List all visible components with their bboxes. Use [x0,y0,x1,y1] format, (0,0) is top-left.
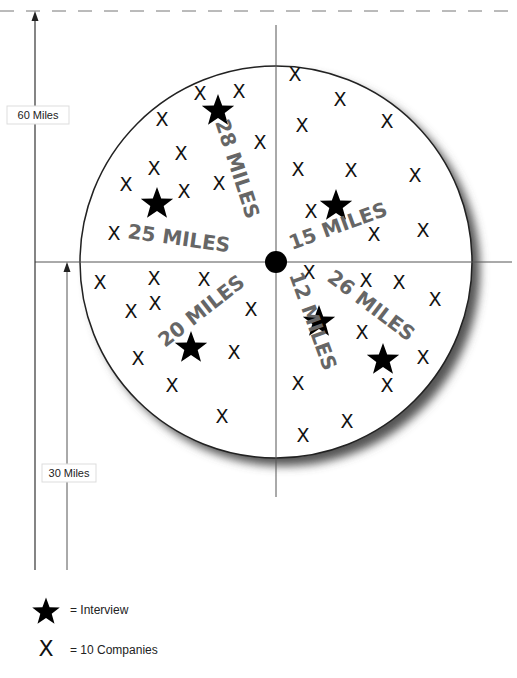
x-icon: X [215,405,228,427]
x-icon: X [333,88,346,110]
x-icon: X [131,347,144,369]
x-icon: X [304,200,317,222]
legend-label-companies: = 10 Companies [70,643,158,657]
x-icon: X [296,424,309,446]
x-icon: X [416,219,429,241]
x-icon: X [232,80,245,102]
x-icon: X [147,157,160,179]
x-icon: X [124,300,137,322]
x-icon: X [148,292,161,314]
x-icon: X [416,346,429,368]
legend-label-interview: = Interview [70,603,129,617]
x-icon: X [392,271,405,293]
x-icon: X [408,164,421,186]
x-icon: X [174,142,187,164]
x-icon: X [380,374,393,396]
x-icon: X [227,341,240,363]
x-icon: X [147,267,160,289]
distance-diagram: X X X X X X X X X X X X X X X X X X X X … [0,0,517,678]
legend-item-interview: = Interview [32,598,128,624]
x-icon: X [355,321,368,343]
x-icon: X [253,131,266,153]
x-icon: X [295,114,308,136]
scale-label-30: 30 Miles [49,467,90,479]
legend-item-companies: X = 10 Companies [38,636,157,661]
x-icon: X [193,82,206,104]
arrow-up-icon [32,11,39,21]
x-icon: X [288,63,301,85]
x-icon: X [165,374,178,396]
x-icon: X [155,108,168,130]
x-icon: X [344,159,357,181]
legend: = Interview X = 10 Companies [32,598,158,661]
x-icon: X [291,158,304,180]
x-icon: X [197,268,210,290]
x-icon: X [380,110,393,132]
x-icon: X [93,271,106,293]
x-icon: X [340,410,353,432]
x-icon: X [38,636,53,661]
x-icon: X [291,372,304,394]
x-icon: X [212,172,225,194]
x-icon: X [119,173,132,195]
arrow-up-icon [64,262,71,272]
x-icon: X [244,298,257,320]
scale-label-60: 60 Miles [18,109,59,121]
x-icon: X [107,222,120,244]
star-icon [32,598,60,624]
x-icon: X [177,180,190,202]
x-icon: X [428,288,441,310]
center-point [265,251,287,273]
scale-60-miles [7,11,69,570]
